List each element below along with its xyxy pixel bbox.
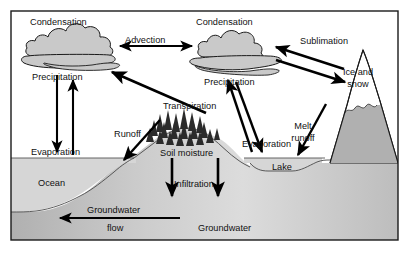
label-precipitation-right: Precipitation <box>204 77 255 87</box>
label-groundwater-flow-line2: flow <box>107 223 124 233</box>
label-melt-line1: Melt <box>294 121 312 131</box>
ocean-surface-band <box>11 158 136 163</box>
label-condensation-right: Condensation <box>196 17 253 27</box>
label-ice-and-snow-line1: Ice and <box>343 67 373 77</box>
label-ice-and-snow-line2: snow <box>347 79 369 89</box>
label-soil-moisture: Soil moisture <box>160 148 213 158</box>
label-infiltration: Infiltration <box>174 179 214 189</box>
label-melt-line2: runoff <box>291 133 315 143</box>
water-cycle-canvas: Condensation Condensation Advection Subl… <box>0 0 413 260</box>
label-lake: Lake <box>272 162 292 172</box>
label-groundwater-flow-line1: Groundwater <box>87 205 140 215</box>
label-runoff: Runoff <box>114 129 141 139</box>
label-condensation-left: Condensation <box>30 17 87 27</box>
label-sublimation: Sublimation <box>300 36 348 46</box>
label-advection: Advection <box>125 35 165 45</box>
label-precipitation-left: Precipitation <box>32 72 83 82</box>
water-cycle-diagram: Condensation Condensation Advection Subl… <box>0 0 413 260</box>
label-evaporation-ocean: Evaporation <box>31 147 80 157</box>
label-ocean: Ocean <box>38 178 65 188</box>
label-transpiration: Transpiration <box>163 101 216 111</box>
label-groundwater: Groundwater <box>198 223 251 233</box>
label-evaporation-lake: Evaporation <box>242 139 291 149</box>
